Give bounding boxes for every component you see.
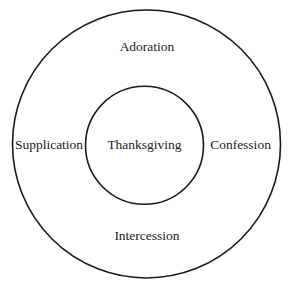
label-adoration: Adoration xyxy=(120,39,175,54)
label-supplication: Supplication xyxy=(15,137,83,152)
label-confession: Confession xyxy=(210,137,271,152)
label-thanksgiving: Thanksgiving xyxy=(107,137,181,152)
label-intercession: Intercession xyxy=(114,228,179,243)
prayer-diagram: Adoration Supplication Thanksgiving Conf… xyxy=(0,0,291,284)
